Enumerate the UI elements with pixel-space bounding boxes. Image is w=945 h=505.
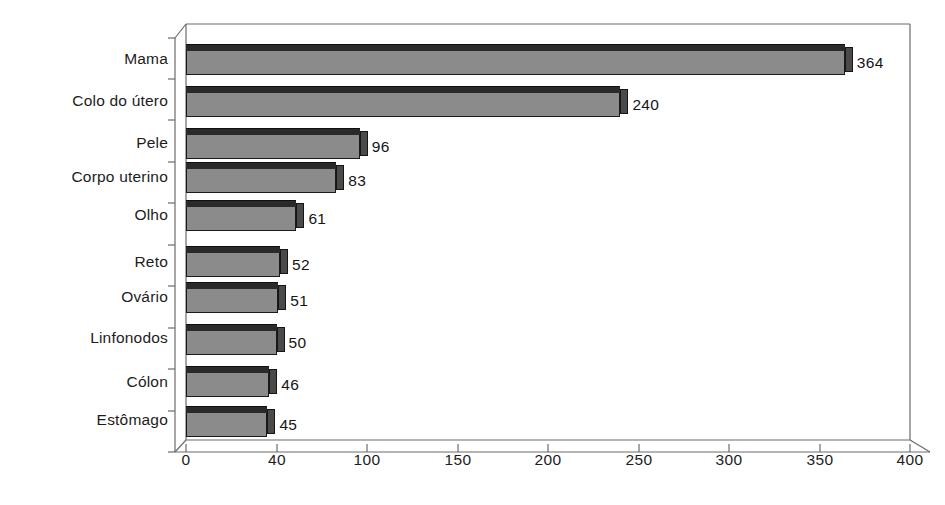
bar-top-face xyxy=(186,162,336,169)
bar-face xyxy=(186,253,280,277)
bar-side-face xyxy=(269,369,277,394)
bar-face xyxy=(186,51,845,75)
bar xyxy=(186,324,277,355)
bar-top-face xyxy=(186,44,845,51)
x-tick-label: 0 xyxy=(182,452,191,468)
bar xyxy=(186,44,845,75)
x-tick-label: 100 xyxy=(354,452,381,468)
bar-value-label: 51 xyxy=(290,293,308,309)
bar-side-face xyxy=(845,47,853,72)
bar-top-face xyxy=(186,200,296,207)
bar-top-face xyxy=(186,128,360,135)
bar-top-face xyxy=(186,366,269,373)
bar-face xyxy=(186,207,296,231)
bar-side-face xyxy=(267,409,275,434)
x-tick-label: 300 xyxy=(716,452,743,468)
x-tick-label: 350 xyxy=(807,452,834,468)
bar xyxy=(186,406,267,437)
bar-value-label: 96 xyxy=(372,139,390,155)
x-tick-label: 200 xyxy=(535,452,562,468)
bar-side-face xyxy=(296,203,304,228)
bar-top-face xyxy=(186,324,277,331)
x-tick-label: 150 xyxy=(445,452,472,468)
bar-top-face xyxy=(186,406,267,413)
bar xyxy=(186,282,278,313)
bar-face xyxy=(186,373,269,397)
bar-value-label: 52 xyxy=(292,257,310,273)
bar-side-face xyxy=(360,131,368,156)
bar-value-label: 45 xyxy=(279,417,297,433)
bar-top-face xyxy=(186,86,620,93)
page-bleed-through xyxy=(300,487,860,499)
bar-face xyxy=(186,289,278,313)
bar-value-label: 83 xyxy=(348,173,366,189)
bar xyxy=(186,86,620,117)
bar-value-label: 240 xyxy=(632,97,659,113)
bar-value-label: 364 xyxy=(857,55,884,71)
bar-side-face xyxy=(280,249,288,274)
bar xyxy=(186,366,269,397)
bar-top-face xyxy=(186,246,280,253)
bar-chart: Mama Colo do útero Pele Corpo uterino Ol… xyxy=(0,0,945,505)
bar-value-label: 46 xyxy=(281,377,299,393)
bar-top-face xyxy=(186,282,278,289)
bar-face xyxy=(186,135,360,159)
bar-side-face xyxy=(277,327,285,352)
x-tick-label: 400 xyxy=(897,452,924,468)
bar xyxy=(186,128,360,159)
bar-face xyxy=(186,93,620,117)
bar xyxy=(186,200,296,231)
bar-face xyxy=(186,331,277,355)
x-tick-label: 40 xyxy=(268,452,286,468)
bar-face xyxy=(186,169,336,193)
bar-side-face xyxy=(620,89,628,114)
bar xyxy=(186,162,336,193)
bar-value-label: 61 xyxy=(308,211,326,227)
bar-value-label: 50 xyxy=(289,335,307,351)
bar-side-face xyxy=(336,165,344,190)
bar-face xyxy=(186,413,267,437)
bar xyxy=(186,246,280,277)
bars-layer: 3642409683615251504645 xyxy=(0,0,945,505)
bar-side-face xyxy=(278,285,286,310)
x-tick-label: 250 xyxy=(626,452,653,468)
